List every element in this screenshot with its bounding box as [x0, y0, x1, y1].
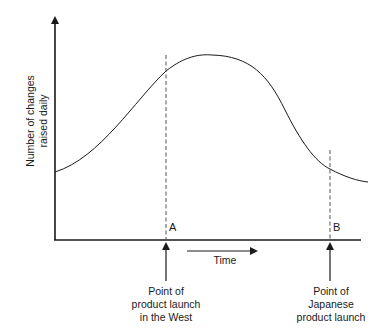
point-a-caption-line1: Point of — [121, 285, 211, 298]
point-b-caption: Point of Japanese product launch — [285, 285, 377, 324]
point-b-caption-line2: Japanese — [285, 298, 377, 311]
changes-curve — [55, 55, 368, 182]
point-a-caption-line3: in the West — [121, 311, 211, 324]
point-a-caption-line2: product launch — [121, 298, 211, 311]
diagram-canvas — [0, 0, 381, 331]
y-axis-label: Number of changes raised daily — [24, 56, 50, 186]
point-b-caption-line1: Point of — [285, 285, 377, 298]
y-axis-label-line1: Number of changes — [24, 56, 37, 186]
x-axis-label: Time — [200, 254, 250, 267]
y-axis-label-line2: raised daily — [37, 56, 50, 186]
point-b-marker: B — [333, 221, 340, 233]
point-a-caption: Point of product launch in the West — [121, 285, 211, 324]
point-b-caption-line3: product launch — [285, 311, 377, 324]
point-a-marker: A — [169, 221, 176, 233]
